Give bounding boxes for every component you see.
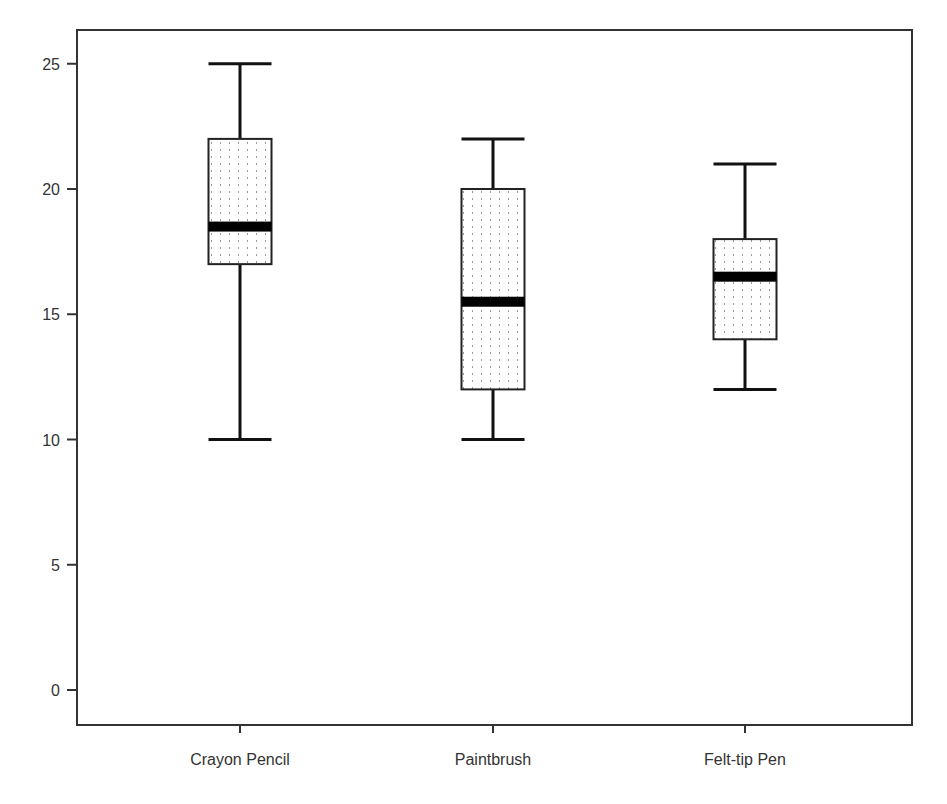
x-axis: Crayon PencilPaintbrushFelt-tip Pen: [190, 725, 786, 768]
y-axis: 0510152025: [42, 56, 77, 699]
box-plot-chart: 0510152025 Crayon PencilPaintbrushFelt-t…: [0, 0, 947, 804]
interquartile-box: [714, 239, 777, 339]
x-category-label: Crayon Pencil: [190, 751, 290, 768]
interquartile-box: [462, 189, 525, 389]
box-crayon-pencil: [209, 64, 272, 440]
y-tick-label: 20: [42, 181, 60, 198]
median-line: [714, 272, 777, 282]
median-line: [462, 297, 525, 307]
y-tick-label: 0: [51, 682, 60, 699]
y-tick-label: 10: [42, 432, 60, 449]
x-category-label: Paintbrush: [455, 751, 532, 768]
y-tick-label: 5: [51, 557, 60, 574]
box-felt-tip-pen: [714, 164, 777, 389]
box-paintbrush: [462, 139, 525, 440]
y-tick-label: 25: [42, 56, 60, 73]
y-tick-label: 15: [42, 306, 60, 323]
interquartile-box: [209, 139, 272, 264]
median-line: [209, 222, 272, 232]
boxes: [209, 64, 777, 440]
x-category-label: Felt-tip Pen: [704, 751, 786, 768]
